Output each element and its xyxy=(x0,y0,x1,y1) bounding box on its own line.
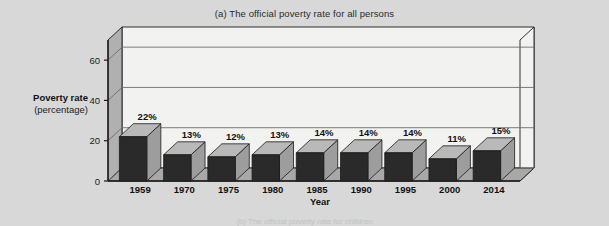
chart-plot-area: 020406022%195913%197012%197513%198014%19… xyxy=(0,0,609,226)
x-tick-label-1990: 1990 xyxy=(351,184,372,195)
bar-value-label-2000: 11% xyxy=(447,133,466,144)
bar-1959 xyxy=(119,124,160,181)
bar-value-label-2014: 15% xyxy=(491,125,511,136)
bar-value-label-1990: 14% xyxy=(359,127,379,138)
x-axis-title: Year xyxy=(100,196,540,207)
bar-front-face-1990 xyxy=(341,153,368,181)
bar-front-face-1980 xyxy=(252,155,279,181)
y-tick-label-20: 20 xyxy=(89,135,100,146)
chart-right-wall xyxy=(520,27,534,181)
bar-value-label-1980: 13% xyxy=(270,129,290,140)
y-tick-label-60: 60 xyxy=(89,55,100,66)
bar-front-face-1970 xyxy=(164,155,191,181)
bar-value-label-1959: 22% xyxy=(138,111,158,122)
x-tick-label-1970: 1970 xyxy=(174,184,195,195)
bar-front-face-2000 xyxy=(429,159,456,181)
bar-value-label-1985: 14% xyxy=(314,127,334,138)
bar-value-label-1995: 14% xyxy=(403,127,423,138)
x-tick-label-2000: 2000 xyxy=(439,184,460,195)
y-tick-label-0: 0 xyxy=(95,176,100,187)
bar-front-face-1985 xyxy=(296,153,323,181)
bar-front-face-2014 xyxy=(473,151,500,181)
bar-front-face-1995 xyxy=(385,153,412,181)
x-tick-label-2014: 2014 xyxy=(483,184,505,195)
poverty-rate-chart-figure: (a) The official poverty rate for all pe… xyxy=(0,0,609,226)
x-tick-label-1959: 1959 xyxy=(130,184,151,195)
x-tick-label-1985: 1985 xyxy=(306,184,328,195)
bar-front-face-1975 xyxy=(208,157,235,181)
bar-front-face-1959 xyxy=(119,137,146,181)
bar-value-label-1975: 12% xyxy=(226,131,246,142)
x-tick-label-1975: 1975 xyxy=(218,184,240,195)
y-tick-label-40: 40 xyxy=(89,95,100,106)
x-tick-label-1995: 1995 xyxy=(395,184,417,195)
next-figure-caption: (b) The official poverty rate for childr… xyxy=(0,217,609,226)
x-tick-label-1980: 1980 xyxy=(262,184,283,195)
bar-value-label-1970: 13% xyxy=(182,129,202,140)
